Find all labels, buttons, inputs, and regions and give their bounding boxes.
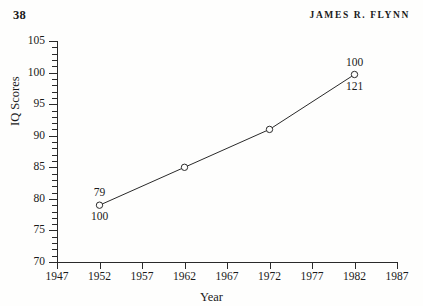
- point-label-below: 121: [335, 81, 375, 93]
- x-axis-title: Year: [0, 290, 423, 305]
- point-label-above: 79: [80, 187, 120, 199]
- running-head-author: JAMES R. FLYNN: [310, 10, 410, 20]
- data-point-marker: [96, 202, 102, 208]
- y-axis-title: IQ Scores: [8, 76, 23, 126]
- series-line: [100, 75, 355, 206]
- iq-scores-line-chart: 707580859095100105 194719521957196219671…: [0, 26, 423, 306]
- point-label-below: 100: [80, 211, 120, 223]
- point-label-above: 100: [335, 57, 375, 69]
- data-point-marker: [181, 164, 187, 170]
- data-series-layer: [0, 26, 423, 306]
- series-markers: [96, 71, 357, 208]
- data-point-marker: [266, 126, 272, 132]
- data-point-marker: [351, 71, 357, 77]
- page-number: 38: [13, 8, 26, 23]
